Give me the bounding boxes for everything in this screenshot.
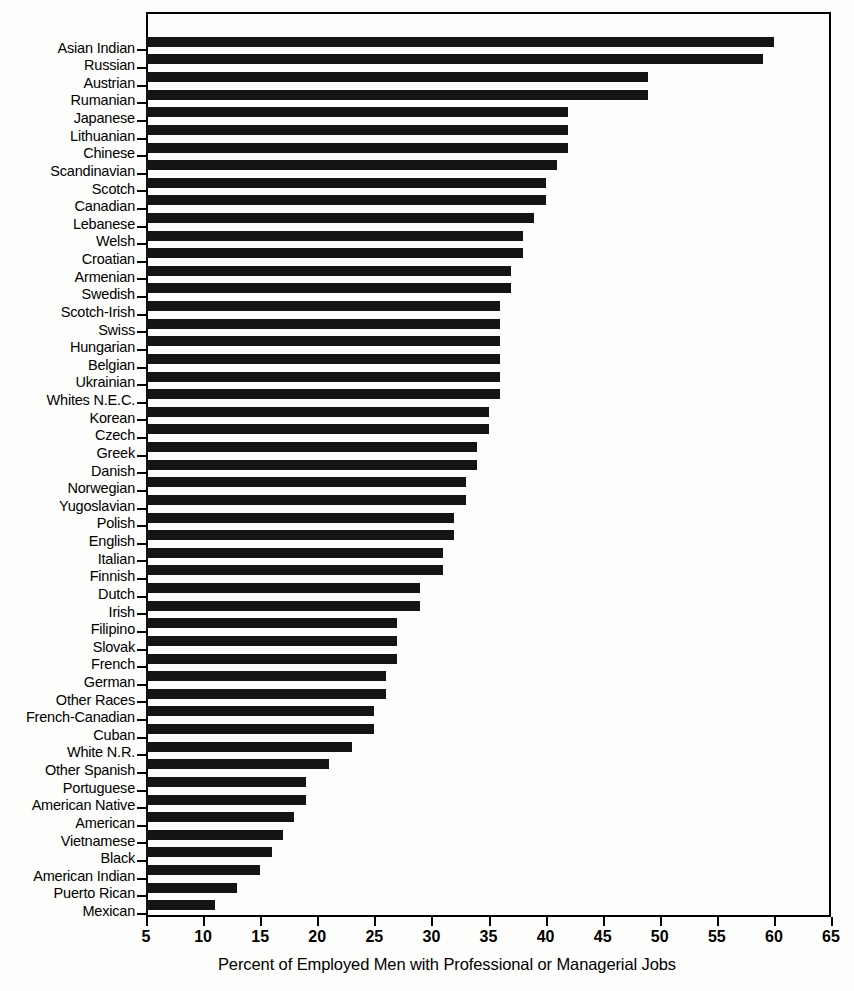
y-axis-tick-mark — [137, 367, 146, 369]
x-axis-tick-mark — [831, 917, 833, 926]
bar — [146, 460, 477, 470]
y-axis-tick-label: Ukrainian — [0, 375, 135, 390]
bar-row — [146, 156, 831, 174]
bar-row — [146, 262, 831, 280]
y-axis-tick-label: Black — [0, 851, 135, 866]
bar-row — [146, 350, 831, 368]
bar-row — [146, 244, 831, 262]
bar — [146, 301, 500, 311]
bar — [146, 143, 568, 153]
y-axis-tick-label: Belgian — [0, 358, 135, 373]
bar-row — [146, 315, 831, 333]
bar — [146, 125, 568, 135]
y-axis-tick-label: Swiss — [0, 323, 135, 338]
x-axis-tick-mark — [203, 917, 205, 926]
y-axis-tick-mark — [137, 314, 146, 316]
y-axis-tick-mark — [137, 102, 146, 104]
bar-row — [146, 791, 831, 809]
bar-row — [146, 227, 831, 245]
x-axis-tick-label: 30 — [423, 928, 441, 946]
bar-row — [146, 879, 831, 897]
y-axis-tick-mark — [137, 261, 146, 263]
bar-series — [146, 12, 831, 916]
bar-row — [146, 685, 831, 703]
bar-row — [146, 650, 831, 668]
bar — [146, 724, 374, 734]
y-axis-tick-label: American Indian — [0, 869, 135, 884]
bar — [146, 654, 397, 664]
y-axis-tick-label: Korean — [0, 411, 135, 426]
y-axis-tick-mark — [137, 684, 146, 686]
y-axis-tick-label: White N.R. — [0, 745, 135, 760]
bar — [146, 742, 352, 752]
y-axis-tick-label: French — [0, 657, 135, 672]
bar — [146, 336, 500, 346]
bar-row — [146, 332, 831, 350]
x-axis-tick-mark — [489, 917, 491, 926]
bar — [146, 565, 443, 575]
y-axis-tick-mark — [137, 472, 146, 474]
y-axis-tick-mark — [137, 138, 146, 140]
bar-row — [146, 139, 831, 157]
bar-row — [146, 33, 831, 51]
y-axis-tick-mark — [137, 895, 146, 897]
y-axis-tick-mark — [137, 437, 146, 439]
y-axis-tick-mark — [137, 278, 146, 280]
bar — [146, 477, 466, 487]
y-axis-tick-label: Lithuanian — [0, 129, 135, 144]
bar-row — [146, 773, 831, 791]
y-axis-tick-mark — [137, 631, 146, 633]
bar-row — [146, 861, 831, 879]
bar — [146, 178, 546, 188]
y-axis-tick-label: Portuguese — [0, 781, 135, 796]
y-axis-tick-label: Other Spanish — [0, 763, 135, 778]
y-axis-tick-mark — [137, 384, 146, 386]
bar — [146, 495, 466, 505]
y-axis-tick-mark — [137, 490, 146, 492]
x-axis-tick-label: 25 — [365, 928, 383, 946]
bar-row — [146, 473, 831, 491]
y-axis-tick-label: Asian Indian — [0, 41, 135, 56]
y-axis-tick-label: Italian — [0, 552, 135, 567]
y-axis-tick-label: Scandinavian — [0, 164, 135, 179]
y-axis-tick-label: Puerto Rican — [0, 886, 135, 901]
y-axis-tick-label: Lebanese — [0, 217, 135, 232]
x-axis-tick-label: 65 — [822, 928, 840, 946]
bar — [146, 548, 443, 558]
bar-row — [146, 50, 831, 68]
y-axis-tick-label: American — [0, 816, 135, 831]
y-axis-tick-mark — [137, 508, 146, 510]
y-axis-tick-label: Swedish — [0, 287, 135, 302]
bar-row — [146, 614, 831, 632]
y-axis-tick-label: Rumanian — [0, 93, 135, 108]
bar-row — [146, 491, 831, 509]
bar-row — [146, 843, 831, 861]
x-axis-tick-mark — [603, 917, 605, 926]
y-axis-tick-mark — [137, 913, 146, 915]
y-axis-tick-label: Irish — [0, 605, 135, 620]
bar-row — [146, 438, 831, 456]
bar — [146, 90, 648, 100]
bar — [146, 389, 500, 399]
bar-row — [146, 297, 831, 315]
y-axis-tick-mark — [137, 85, 146, 87]
bar-row — [146, 456, 831, 474]
y-axis-tick-label: Japanese — [0, 111, 135, 126]
y-axis-tick-mark — [137, 49, 146, 51]
y-axis-tick-mark — [137, 543, 146, 545]
x-axis-tick-mark — [774, 917, 776, 926]
bar — [146, 283, 511, 293]
y-axis-tick-label: Vietnamese — [0, 834, 135, 849]
bar-row — [146, 826, 831, 844]
bar-row — [146, 279, 831, 297]
plot-area — [146, 12, 831, 916]
x-axis-tick-label: 10 — [194, 928, 212, 946]
y-axis-tick-mark — [137, 649, 146, 651]
bar — [146, 424, 489, 434]
y-axis-tick-mark — [137, 613, 146, 615]
bar — [146, 442, 477, 452]
bar — [146, 706, 374, 716]
y-axis-tick-mark — [137, 772, 146, 774]
bar-row — [146, 544, 831, 562]
bar-row — [146, 755, 831, 773]
